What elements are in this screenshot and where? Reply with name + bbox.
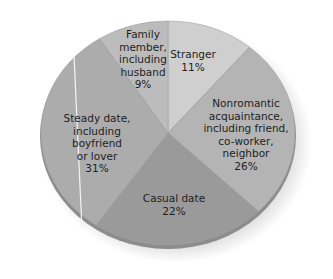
label-nonromantic: Nonromantic acquaintance, including frie… (203, 97, 288, 173)
label-casual: Casual date 22% (143, 192, 205, 217)
label-steady: Steady date, including boyfriend or love… (64, 112, 131, 175)
label-family: Family member, including husband 9% (119, 28, 167, 91)
label-stranger: Stranger 11% (170, 48, 216, 73)
